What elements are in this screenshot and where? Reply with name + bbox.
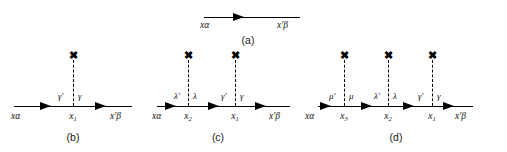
panel-a-arrowhead-1 xyxy=(233,13,244,21)
panel-d-vertex-3-point-sub: 1 xyxy=(432,115,435,122)
panel-c-cross-icon-1: ✖ xyxy=(184,50,193,61)
panel-c-vertex-2-point-sub: 1 xyxy=(235,115,238,122)
panel-b-caption: (b) xyxy=(53,131,93,143)
panel-d-photon-dashed-2 xyxy=(388,60,389,106)
panel-c-arrowhead-2 xyxy=(208,102,219,110)
panel-b-vertex-1-point-sub: 1 xyxy=(73,115,76,122)
panel-d-photon-dashed-1 xyxy=(344,60,345,106)
panel-c-vertex-2-right-index: γ xyxy=(240,92,244,101)
panel-c-vertex-1-point-label: x2 xyxy=(184,112,191,122)
panel-d-vertex-1-right-index: μ xyxy=(349,92,354,101)
panel-c-arrowhead-1 xyxy=(165,102,176,110)
panel-b-vertex-1-right-index: γ xyxy=(78,92,82,101)
panel-d-arrowhead-1 xyxy=(320,102,331,110)
panel-b-arrowhead-2 xyxy=(95,102,106,110)
panel-d-vertex-2-right-index: λ xyxy=(393,92,397,101)
panel-d-cross-icon-1: ✖ xyxy=(340,50,349,61)
panel-d-cross-icon-3: ✖ xyxy=(428,50,437,61)
panel-d-arrowhead-3 xyxy=(403,102,414,110)
panel-d-cross-icon-2: ✖ xyxy=(384,50,393,61)
panel-d-vertex-3-left-index: γ′ xyxy=(418,92,424,101)
panel-d-photon-dashed-3 xyxy=(432,60,433,106)
panel-d-vertex-1-point-label: x3 xyxy=(340,112,347,122)
panel-c-vertex-1-right-index: λ xyxy=(193,92,197,101)
panel-d-vertex-1-left-index: μ′ xyxy=(329,92,336,101)
panel-b-photon-dashed-1 xyxy=(73,60,74,106)
panel-c-caption: (c) xyxy=(198,131,238,143)
panel-b-right-endpoint-label: x′β xyxy=(110,112,121,122)
panel-c-vertex-1-left-index: λ′ xyxy=(174,92,180,101)
panel-d-vertex-2-point-sub: 2 xyxy=(388,115,391,122)
feynman-diagram-figure: xα x′β (a) ✖ γ′ γ x1 xα x′β (b) ✖ λ′ λ x… xyxy=(0,0,507,152)
panel-d-arrowhead-2 xyxy=(361,102,372,110)
panel-d-vertex-3-point-label: x1 xyxy=(428,112,435,122)
panel-c-left-endpoint-label: xα xyxy=(152,112,161,122)
panel-b-vertex-1-point-label: x1 xyxy=(69,112,76,122)
panel-c-right-endpoint-label: x′β xyxy=(269,112,280,122)
panel-c-cross-icon-2: ✖ xyxy=(231,50,240,61)
panel-c-vertex-1-point-sub: 2 xyxy=(188,115,191,122)
panel-b-arrowhead-1 xyxy=(40,102,51,110)
panel-d-vertex-2-left-index: λ′ xyxy=(374,92,380,101)
panel-b-fermion-line xyxy=(14,106,132,107)
panel-d-left-endpoint-label: xα xyxy=(305,112,314,122)
panel-a-left-endpoint-label: xα xyxy=(200,21,209,31)
panel-a-fermion-line xyxy=(204,17,300,18)
panel-b-cross-icon-1: ✖ xyxy=(69,50,78,61)
panel-c-vertex-2-left-index: γ′ xyxy=(221,92,227,101)
panel-c-arrowhead-3 xyxy=(255,102,266,110)
panel-d-right-endpoint-label: x′β xyxy=(455,112,466,122)
panel-b-vertex-1-left-index: γ′ xyxy=(58,92,64,101)
panel-c-photon-dashed-1 xyxy=(188,60,189,106)
panel-c-vertex-2-point-label: x1 xyxy=(231,112,238,122)
panel-d-vertex-2-point-label: x2 xyxy=(384,112,391,122)
panel-a-caption: (a) xyxy=(228,34,268,46)
panel-d-caption: (d) xyxy=(376,131,416,143)
panel-a-right-endpoint-label: x′β xyxy=(277,21,288,31)
panel-b-left-endpoint-label: xα xyxy=(11,112,20,122)
panel-c-photon-dashed-2 xyxy=(235,60,236,106)
panel-c-fermion-line xyxy=(157,106,290,107)
panel-d-vertex-1-point-sub: 3 xyxy=(344,115,347,122)
panel-d-arrowhead-4 xyxy=(443,102,454,110)
panel-d-vertex-3-right-index: γ xyxy=(437,92,441,101)
